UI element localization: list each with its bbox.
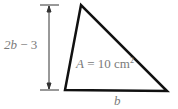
- height-label: 2b − 3: [4, 37, 37, 53]
- triangle-diagram: [0, 0, 178, 109]
- area-label: A = 10 cm2: [76, 56, 134, 72]
- triangle: [65, 5, 167, 91]
- height-dimension-line: [40, 5, 59, 90]
- base-label: b: [114, 93, 121, 109]
